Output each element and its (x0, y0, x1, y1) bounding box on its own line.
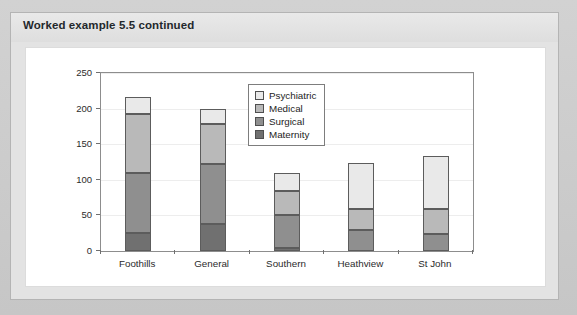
bar-segment-medical (200, 124, 226, 164)
bar-segment-surgical (125, 173, 151, 234)
worked-example-panel: Worked example 5.5 continued 05010015020… (10, 12, 559, 300)
legend-label: Maternity (269, 129, 309, 140)
y-axis-tick-mark (96, 143, 100, 144)
y-axis-tick-mark (96, 179, 100, 180)
bar-segment-psychiatric (423, 156, 449, 209)
legend-swatch-psychiatric-icon (255, 91, 264, 100)
bar-foothills (125, 73, 151, 251)
y-axis-tick-label: 150 (26, 138, 92, 149)
x-axis-tick-label: General (194, 258, 229, 269)
x-axis-tick-label: St John (418, 258, 451, 269)
x-axis-tick-mark (100, 250, 101, 254)
bar-segment-medical (348, 209, 374, 230)
bar-segment-maternity (125, 233, 151, 251)
y-axis-tick-mark (96, 214, 100, 215)
bar-segment-maternity (200, 224, 226, 251)
bar-segment-psychiatric (200, 109, 226, 124)
legend-item-maternity: Maternity (255, 128, 316, 141)
y-axis-tick-mark (96, 108, 100, 109)
bar-segment-surgical (200, 164, 226, 224)
bar-segment-surgical (348, 230, 374, 251)
legend-label: Psychiatric (269, 90, 316, 101)
bar-st-john (423, 73, 449, 251)
bar-segment-psychiatric (274, 173, 300, 192)
y-axis-tick-label: 50 (26, 209, 92, 220)
y-axis-tick-label: 0 (26, 245, 92, 256)
chart-card: 050100150200250FoothillsGeneralSouthernH… (25, 47, 546, 287)
bar-segment-psychiatric (125, 97, 151, 115)
legend-item-psychiatric: Psychiatric (255, 89, 316, 102)
x-axis-tick-mark (398, 250, 399, 254)
bar-segment-medical (423, 209, 449, 234)
y-axis-tick-label: 200 (26, 102, 92, 113)
bar-segment-surgical (423, 234, 449, 251)
panel-header: Worked example 5.5 continued (11, 13, 558, 42)
x-axis-tick-mark (174, 250, 175, 254)
x-axis-tick-label: Foothills (119, 258, 155, 269)
y-axis-tick-mark (96, 72, 100, 73)
x-axis-tick-mark (249, 250, 250, 254)
x-axis-tick-mark (323, 250, 324, 254)
panel-header-title: Worked example 5.5 continued (23, 19, 194, 31)
bar-segment-surgical (274, 215, 300, 248)
x-axis-tick-mark (472, 250, 473, 254)
y-axis-tick-label: 100 (26, 173, 92, 184)
legend-label: Medical (269, 103, 303, 114)
bar-segment-maternity (274, 248, 300, 251)
legend-item-surgical: Surgical (255, 115, 316, 128)
bar-heathview (348, 73, 374, 251)
bar-segment-medical (125, 114, 151, 172)
bar-segment-psychiatric (348, 163, 374, 209)
chart-legend: PsychiatricMedicalSurgicalMaternity (248, 84, 325, 146)
bar-general (200, 73, 226, 251)
page-background: Worked example 5.5 continued 05010015020… (0, 0, 577, 315)
x-axis-tick-label: Southern (266, 258, 306, 269)
legend-swatch-surgical-icon (255, 117, 264, 126)
y-axis-tick-label: 250 (26, 67, 92, 78)
legend-swatch-medical-icon (255, 104, 264, 113)
x-axis-tick-label: Heathview (338, 258, 384, 269)
bar-segment-medical (274, 191, 300, 215)
legend-label: Surgical (269, 116, 304, 127)
legend-swatch-maternity-icon (255, 130, 264, 139)
legend-item-medical: Medical (255, 102, 316, 115)
